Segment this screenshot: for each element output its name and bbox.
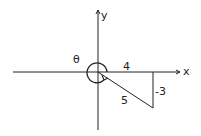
adjacent-label: 4 bbox=[123, 61, 130, 72]
angle-label: θ bbox=[73, 54, 80, 65]
opposite-label: -3 bbox=[155, 86, 166, 97]
hypotenuse-label: 5 bbox=[121, 95, 128, 106]
x-axis-label: x bbox=[183, 66, 190, 77]
y-axis-label: y bbox=[101, 10, 108, 21]
